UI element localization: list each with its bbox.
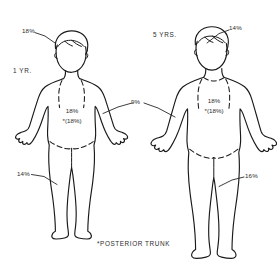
label-trunk-posterior-1yr: *(18%) (47, 116, 97, 126)
diagram-caption: *POSTERIOR TRUNK (97, 240, 170, 247)
region-boundary-shoulder-right-1yr (81, 81, 84, 108)
leader-line-arm-5yrs (144, 103, 175, 117)
label-leg-percent-1yr: 14% (17, 170, 30, 177)
figure-5yrs-drawing (151, 27, 276, 259)
region-boundary-hip-left-5yrs (190, 149, 214, 158)
region-boundary-hip-left-1yr (50, 142, 72, 149)
region-boundary-collar-5yrs (204, 78, 224, 81)
hair-strand-detail-1yr (65, 41, 72, 46)
label-trunk-posterior-5yrs: *(18%) (189, 106, 239, 116)
label-head-percent-5yrs: 14% (229, 24, 242, 31)
label-trunk-anterior-1yr: 18% (47, 106, 97, 116)
head-face-outline-1yr (56, 45, 86, 72)
leader-line-head-1yr (35, 33, 55, 43)
label-trunk-group-1yr: 18% *(18%) (47, 106, 97, 125)
head-hair-outline-1yr (55, 31, 87, 55)
region-boundary-shoulder-left-1yr (59, 81, 62, 108)
label-trunk-group-5yrs: 18% *(18%) (189, 96, 239, 115)
label-arm-percent-shared: 9% (131, 98, 140, 105)
label-head-percent-1yr: 18% (22, 27, 35, 34)
leader-line-leg-5yrs (219, 177, 244, 187)
head-face-outline-5yrs (196, 41, 227, 70)
region-boundary-hip-right-1yr (72, 142, 94, 149)
region-boundary-hip-right-5yrs (214, 149, 238, 158)
label-leg-percent-5yrs: 16% (245, 172, 258, 179)
label-age-5yrs: 5 YRS. (153, 31, 177, 38)
label-trunk-anterior-5yrs: 18% (189, 96, 239, 106)
figure-1yr-drawing (16, 31, 128, 239)
body-surface-area-diagram: 18% 1 YR. 18% *(18%) 14% 9% 14% 5 YRS. 1… (0, 0, 277, 266)
figures-illustration (0, 0, 277, 266)
leader-line-leg-1yr (32, 175, 58, 185)
label-age-1yr: 1 YR. (13, 67, 32, 74)
